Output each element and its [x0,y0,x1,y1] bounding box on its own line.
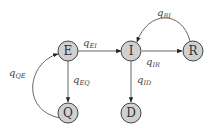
edge-label-IR: qIR [146,56,160,69]
edge-label-RI: qRI [157,7,171,20]
node-D-label: D [126,106,136,120]
edge-R-I [137,18,190,42]
edge-label-ID: qID [137,74,152,87]
node-E: E [58,41,78,61]
edge-label-EI: qEI [83,37,97,50]
edge-label-QE: qQE [9,67,26,80]
node-E-label: E [64,44,73,58]
node-R: R [183,41,203,61]
node-R-label: R [188,44,198,58]
node-D: D [121,103,141,123]
node-I-label: I [129,44,134,58]
node-I: I [121,41,141,61]
edge-label-EQ: qEQ [73,74,90,87]
state-diagram: qEI qIR qRI qEQ qQE qID E I R Q D [0,0,215,135]
node-Q: Q [58,103,78,123]
edge-Q-E [33,54,60,118]
node-Q-label: Q [63,106,73,120]
